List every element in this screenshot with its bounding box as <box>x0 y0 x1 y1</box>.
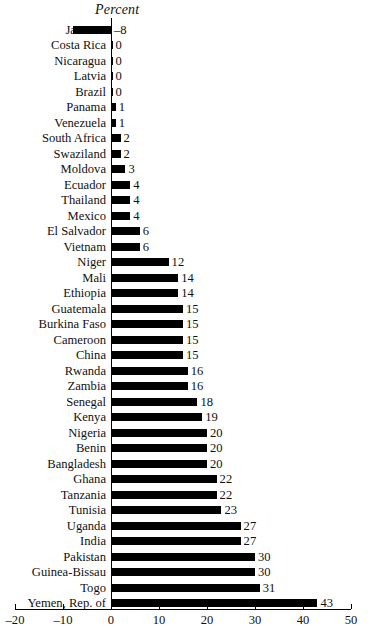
bar-row: Zambia16 <box>0 379 374 395</box>
category-label: Panama <box>66 101 106 114</box>
value-label: 6 <box>143 225 149 238</box>
value-label: 15 <box>186 302 199 315</box>
bar <box>111 429 207 437</box>
bar-row: Thailand4 <box>0 193 374 209</box>
bar <box>111 599 317 607</box>
value-label: 4 <box>133 194 139 207</box>
value-label: 0 <box>116 85 122 98</box>
bar-row: India27 <box>0 534 374 550</box>
category-label: Uganda <box>67 519 106 532</box>
bar-row: Swaziland2 <box>0 146 374 162</box>
category-label: Rwanda <box>65 364 106 377</box>
bar-row: Moldova3 <box>0 162 374 178</box>
bar <box>111 491 217 499</box>
x-axis-line <box>15 609 351 610</box>
category-label: China <box>76 349 106 362</box>
x-axis-tick <box>111 604 112 609</box>
category-label: Bangladesh <box>47 457 106 470</box>
value-label: 20 <box>210 426 223 439</box>
bar-row: Uganda27 <box>0 518 374 534</box>
bar-row: Pakistan30 <box>0 549 374 565</box>
x-axis-tick-label: 30 <box>249 614 262 627</box>
bar-row: Brazil0 <box>0 84 374 100</box>
value-label: 12 <box>172 256 185 269</box>
category-label: Tanzania <box>61 488 106 501</box>
category-label: Zambia <box>68 380 106 393</box>
bar <box>111 460 207 468</box>
x-axis-tick-label: 40 <box>297 614 310 627</box>
category-label: Yemen, Rep. of <box>28 597 106 610</box>
x-axis-tick <box>63 604 64 609</box>
value-label: 16 <box>191 364 204 377</box>
value-label: 15 <box>186 349 199 362</box>
value-label: 2 <box>124 147 130 160</box>
x-axis-tick <box>351 604 352 609</box>
bar <box>111 553 255 561</box>
x-axis-tick-label: 10 <box>153 614 166 627</box>
bar-row: Niger12 <box>0 255 374 271</box>
category-label: Thailand <box>61 194 106 207</box>
zero-axis-line <box>111 18 112 609</box>
category-label: Nicaragua <box>54 54 106 67</box>
bar-row: Senegal18 <box>0 394 374 410</box>
value-label: 15 <box>186 318 199 331</box>
bar <box>111 413 202 421</box>
value-label: 14 <box>181 287 194 300</box>
x-axis-tick <box>159 604 160 609</box>
category-label: Benin <box>76 442 106 455</box>
bar <box>111 243 140 251</box>
bar <box>111 258 169 266</box>
category-label: Cameroon <box>54 333 106 346</box>
bar-row: Nicaragua0 <box>0 53 374 69</box>
x-axis-tick <box>15 604 16 609</box>
x-axis-tick <box>207 604 208 609</box>
category-label: Ghana <box>73 473 106 486</box>
bar-row: South Africa2 <box>0 131 374 147</box>
category-label: Moldova <box>61 163 106 176</box>
bar <box>111 336 183 344</box>
bar <box>111 134 121 142</box>
bar-row: Mali14 <box>0 270 374 286</box>
bar-row: China15 <box>0 348 374 364</box>
bar-row: Latvia0 <box>0 69 374 85</box>
category-label: Kenya <box>73 411 106 424</box>
category-label: Niger <box>77 256 106 269</box>
bar <box>111 165 125 173</box>
category-label: Vietnam <box>63 240 106 253</box>
bar-row: Mexico4 <box>0 208 374 224</box>
bar-row: Rwanda16 <box>0 363 374 379</box>
bar <box>111 150 121 158</box>
bar-row: Ecuador4 <box>0 177 374 193</box>
value-label: 14 <box>181 271 194 284</box>
category-label: India <box>80 535 106 548</box>
category-label: Pakistan <box>63 550 106 563</box>
value-label: 4 <box>133 178 139 191</box>
bar <box>111 289 178 297</box>
bar-row: Nigeria20 <box>0 425 374 441</box>
value-label: 0 <box>116 70 122 83</box>
value-label: 16 <box>191 380 204 393</box>
value-label: 30 <box>258 566 271 579</box>
value-label: 20 <box>210 442 223 455</box>
value-label: 27 <box>244 519 257 532</box>
bar-row: Guatemala15 <box>0 301 374 317</box>
category-label: Togo <box>80 581 106 594</box>
value-label: 15 <box>186 333 199 346</box>
value-label: 31 <box>263 581 276 594</box>
bar-row: Jamaica–8 <box>0 22 374 38</box>
bar-row: Panama1 <box>0 100 374 116</box>
category-label: Tunisia <box>69 504 106 517</box>
bar-row: Burkina Faso15 <box>0 317 374 333</box>
x-axis-tick-label: –20 <box>6 614 25 627</box>
bar <box>111 506 221 514</box>
bar-row: Guinea-Bissau30 <box>0 565 374 581</box>
bar <box>111 274 178 282</box>
bar <box>111 584 260 592</box>
x-axis-tick-label: 0 <box>108 614 114 627</box>
bar <box>111 181 130 189</box>
value-label: 30 <box>258 550 271 563</box>
category-label: Costa Rica <box>51 39 106 52</box>
category-label: El Salvador <box>47 225 106 238</box>
bar <box>111 212 130 220</box>
bar-row: Cameroon15 <box>0 332 374 348</box>
